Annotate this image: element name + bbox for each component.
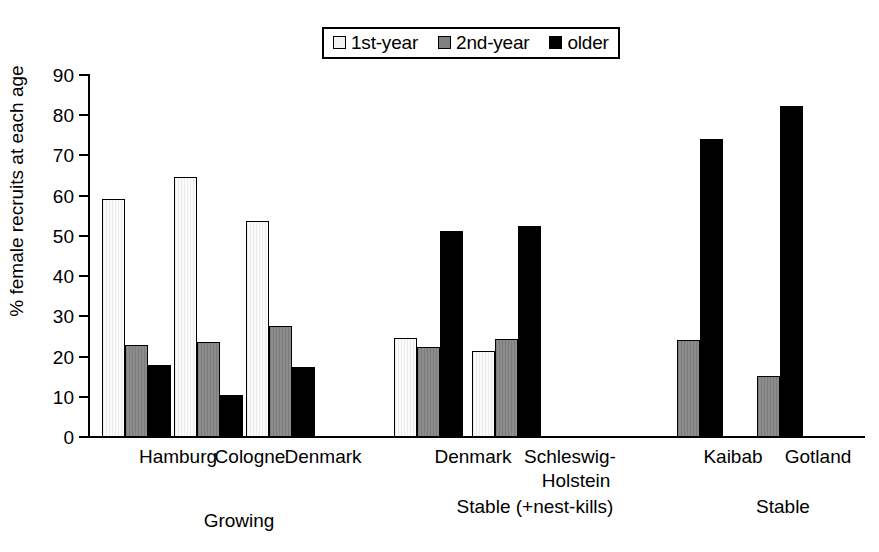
bar-2nd-year-Kaibab-5 [677, 340, 700, 437]
group-label-stable: Stable [718, 496, 848, 517]
legend-label-older: older [567, 33, 608, 52]
bar-1st-year-Cologne-1 [174, 177, 197, 437]
legend-label-2nd-year: 2nd-year [456, 33, 529, 52]
bar-2nd-year-Denmark-3 [417, 347, 440, 437]
y-axis-tick [79, 74, 88, 76]
y-axis-tick-label: 80 [53, 106, 74, 125]
y-axis-tick [79, 275, 88, 277]
swatch-older-icon [549, 36, 562, 49]
bar-older-SchleswigHolstein-4 [518, 226, 541, 437]
y-axis-tick-labels: 0102030405060708090 [0, 0, 74, 552]
y-axis-tick [79, 195, 88, 197]
legend-entry-2nd-year: 2nd-year [438, 33, 529, 52]
bar-older-Gotland-6 [780, 106, 803, 437]
group-label-stablenestkills: Stable (+nest-kills) [420, 496, 650, 517]
y-axis-tick-label: 20 [53, 348, 74, 367]
x-axis-label-gotland: Gotland [768, 446, 868, 467]
y-axis-tick-label: 60 [53, 187, 74, 206]
bar-2nd-year-Denmark-2 [269, 326, 292, 437]
y-axis-tick [79, 114, 88, 116]
bar-older-Hamburg-0 [148, 365, 171, 437]
y-axis-tick [79, 315, 88, 317]
chart-figure: 1st-year 2nd-year older % female recruit… [0, 0, 879, 552]
bar-1st-year-SchleswigHolstein-4 [472, 351, 495, 437]
y-axis-tick-label: 50 [53, 227, 74, 246]
y-axis-tick [79, 356, 88, 358]
bar-older-Denmark-2 [292, 367, 315, 437]
bar-older-Kaibab-5 [700, 139, 723, 437]
bar-2nd-year-Hamburg-0 [125, 345, 148, 438]
chart-legend: 1st-year 2nd-year older [322, 27, 620, 59]
legend-entry-older: older [549, 33, 608, 52]
y-axis-tick [79, 154, 88, 156]
x-axis-label-denmark: Denmark [268, 446, 378, 467]
bar-1st-year-Denmark-3 [394, 338, 417, 437]
y-axis-tick [79, 396, 88, 398]
bar-2nd-year-SchleswigHolstein-4 [495, 339, 518, 437]
x-axis-label-schleswig: Schleswig- [510, 446, 630, 467]
group-label-growing: Growing [174, 510, 304, 531]
bar-1st-year-Hamburg-0 [102, 199, 125, 437]
y-axis-tick-label: 30 [53, 307, 74, 326]
bar-2nd-year-Cologne-1 [197, 342, 220, 437]
swatch-1st-year-icon [333, 36, 346, 49]
y-axis-tick-label: 40 [53, 267, 74, 286]
bar-1st-year-Denmark-2 [246, 221, 269, 437]
x-axis-label-kaibab: Kaibab [688, 446, 778, 467]
y-axis-tick-label: 10 [53, 388, 74, 407]
y-axis-tick-label: 90 [53, 66, 74, 85]
swatch-2nd-year-icon [438, 36, 451, 49]
y-axis-tick [79, 235, 88, 237]
y-axis-tick-label: 70 [53, 146, 74, 165]
bar-2nd-year-Gotland-6 [757, 376, 780, 437]
y-axis-tick-label: 0 [63, 428, 74, 447]
legend-entry-1st-year: 1st-year [333, 33, 418, 52]
x-axis-label-holstein: Holstein [516, 470, 636, 491]
legend-label-1st-year: 1st-year [351, 33, 418, 52]
y-axis-tick [79, 436, 88, 438]
bar-series-container [88, 75, 865, 437]
bar-older-Denmark-3 [440, 231, 463, 437]
bar-older-Cologne-1 [220, 395, 243, 437]
